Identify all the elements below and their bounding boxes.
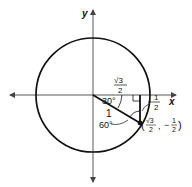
- y-axis-label: y: [81, 8, 88, 19]
- svg-text:2: 2: [149, 126, 153, 133]
- radius-label: 1: [106, 108, 112, 119]
- angle-30-label: 30°: [102, 96, 116, 106]
- angle-60-label: 60°: [99, 120, 113, 130]
- point-coordinate-label: ( √3 2 , − 1 2 ): [141, 117, 182, 133]
- angle-60-arc: [130, 111, 140, 117]
- unit-circle-diagram: y x √3 2 1 2 30° 60° 1 ( √3 2 , − 1 2 ): [0, 0, 192, 187]
- svg-text:2: 2: [154, 103, 159, 112]
- right-angle-marker: [133, 95, 140, 101]
- svg-text:1: 1: [154, 93, 159, 102]
- angle-30-arc: [118, 95, 122, 108]
- horizontal-leg-label: √3 2: [114, 76, 127, 95]
- x-axis-label: x: [168, 96, 175, 107]
- svg-text:−: −: [164, 120, 169, 130]
- svg-text:2: 2: [172, 126, 176, 133]
- svg-text:√3: √3: [146, 117, 154, 124]
- angle-60-leader: [111, 120, 128, 125]
- svg-text:): ): [178, 119, 182, 131]
- svg-text:√3: √3: [114, 76, 123, 85]
- svg-text:(: (: [141, 119, 145, 131]
- svg-text:,: ,: [158, 121, 161, 131]
- svg-text:2: 2: [118, 86, 123, 95]
- svg-text:1: 1: [172, 117, 176, 124]
